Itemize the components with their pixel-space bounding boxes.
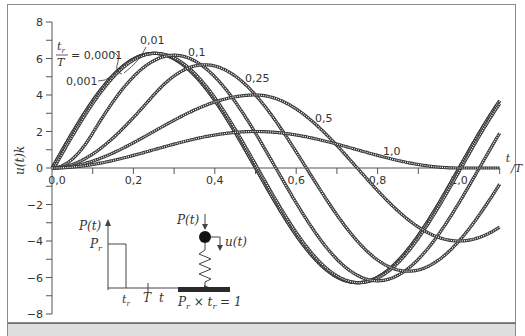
y-tick-label: −4 (27, 235, 43, 248)
inset-impulse-label: Pr × tr = 1 (177, 295, 242, 311)
x-tick-label: 0,2 (125, 174, 143, 187)
arrow-up-icon (105, 219, 111, 226)
legend-title-T: T (57, 56, 66, 69)
x-tick-label: 0,0 (48, 174, 66, 187)
label-0-001: 0,001 (66, 75, 98, 88)
label-0-25: 0,25 (245, 72, 270, 85)
y-axis-title: u(t)k (13, 146, 27, 175)
y-tick-label: 2 (36, 126, 43, 139)
ground-icon (178, 287, 230, 292)
inset-force-label: P(t) (176, 213, 200, 227)
label-1-0: 1,0 (383, 145, 401, 158)
inset-tr-label: tr (122, 293, 130, 308)
arrow-down-icon (217, 245, 223, 251)
y-tick-label: −2 (27, 199, 43, 212)
arrow-down-icon (202, 224, 208, 230)
curve-labels: trT= 0,00010,0010,010,10,250,51,0 (56, 34, 401, 158)
y-tick-label: −6 (27, 272, 43, 285)
inset-load-y-label: P(t) (78, 219, 102, 233)
inset-t-label: t (159, 291, 164, 305)
y-tick-label: 6 (36, 53, 43, 66)
label-0-0001: = 0,0001 (71, 49, 122, 62)
y-tick-label: 8 (36, 16, 43, 29)
legend-title: tr (57, 40, 65, 55)
x-tick-label: 0,6 (287, 174, 305, 187)
response-chart: −8−6−4−2024680,20,40,60,81,00,0t/Tu(t)k … (0, 0, 525, 336)
inset-level-label: Pr (89, 237, 103, 253)
spring-icon (199, 243, 211, 288)
pulse-shape (108, 244, 126, 288)
y-tick-label: 4 (36, 89, 43, 102)
y-tick-label: −8 (27, 308, 43, 321)
inset-disp-label: u(t) (225, 235, 247, 249)
y-tick-label: 0 (36, 162, 43, 175)
label-0-1: 0,1 (188, 46, 206, 59)
x-tick-label: 0,4 (206, 174, 224, 187)
x-axis-title: t/T (506, 152, 524, 175)
inset-diagram: P(t)PrtrTtP(t)u(t)Pr × tr = 1 (78, 213, 247, 311)
inset-T-label: T (143, 291, 152, 305)
label-0-01: 0,01 (140, 34, 165, 47)
mass-icon (199, 231, 211, 243)
label-0-5: 0,5 (315, 112, 333, 125)
